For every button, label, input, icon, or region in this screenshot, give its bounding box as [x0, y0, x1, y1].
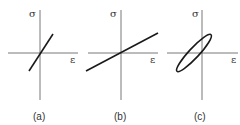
- steep-line: [29, 34, 53, 71]
- caption-a: (a): [33, 111, 45, 122]
- stress-strain-diagram: σ ε (a) σ ε (b) σ ε (c): [0, 0, 240, 125]
- panel-c: σ ε (c): [167, 8, 238, 122]
- sigma-label: σ: [110, 8, 117, 19]
- shallow-line: [86, 33, 158, 71]
- sigma-label: σ: [192, 8, 199, 19]
- caption-b: (b): [114, 111, 126, 122]
- epsilon-label: ε: [231, 54, 236, 65]
- sigma-label: σ: [29, 8, 36, 19]
- epsilon-label: ε: [150, 54, 155, 65]
- caption-c: (c): [194, 111, 206, 122]
- panel-a: σ ε (a): [8, 8, 78, 122]
- panel-b: σ ε (b): [86, 8, 158, 122]
- epsilon-label: ε: [70, 54, 75, 65]
